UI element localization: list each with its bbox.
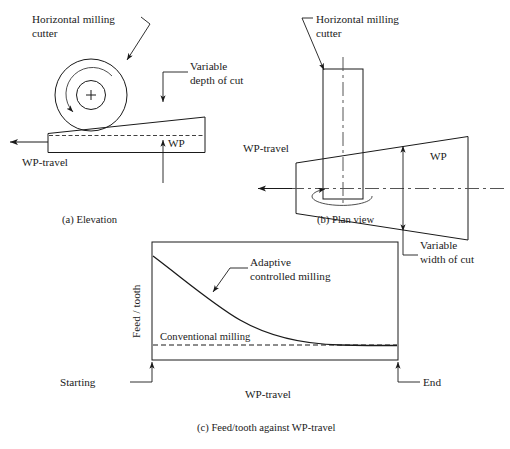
adaptive-milling-label-line2: controlled milling [250, 270, 331, 282]
caption-elevation: (a) Elevation [62, 214, 118, 226]
adaptive-milling-label-line1: Adaptive [250, 256, 291, 268]
panel-elevation: WP-travel WP Variable depth of cut Horiz… [10, 13, 244, 226]
cutter-label-plan-line2: cutter [316, 27, 342, 39]
wp-travel-label-plan: WP-travel [243, 142, 289, 154]
center-cross-icon [86, 90, 96, 100]
caption-plan-view: (b) Plan view [317, 214, 374, 226]
cutter-label-elevation-line2: cutter [32, 27, 58, 39]
elevation-cutter [55, 59, 127, 131]
rotation-arrow-icon [66, 67, 112, 112]
width-of-cut-leader [403, 231, 418, 255]
depth-of-cut-leader [163, 72, 188, 102]
chart-y-axis-label: Feed / tooth [130, 284, 142, 338]
cutter-leader-plan [302, 18, 324, 70]
adaptive-milling-leader [213, 268, 248, 292]
caption-feed-chart: (c) Feed/tooth against WP-travel [197, 422, 335, 434]
chart-x-axis-label: WP-travel [245, 388, 291, 400]
cutter-label-elevation-line1: Horizontal milling [32, 13, 115, 25]
variable-depth-label-line1: Variable [190, 60, 227, 72]
cutter-leader-elevation [127, 17, 150, 60]
wp-label-elevation: WP [168, 137, 185, 149]
variable-width-label-line2: width of cut [420, 253, 475, 265]
panel-plan-view: WP-travel WP Variable width of cut Horiz… [243, 13, 505, 265]
panel-feed-chart: Conventional milling Adaptive controlled… [60, 242, 441, 434]
variable-width-label-line1: Variable [420, 239, 457, 251]
wp-travel-label-elevation: WP-travel [22, 156, 68, 168]
conventional-milling-label: Conventional milling [160, 331, 251, 342]
wp-label-plan: WP [430, 150, 447, 162]
starting-label: Starting [60, 376, 96, 388]
milling-figure: WP-travel WP Variable depth of cut Horiz… [0, 0, 510, 449]
end-label: End [423, 376, 441, 388]
variable-depth-label-line2: depth of cut [190, 74, 244, 86]
cutter-label-plan-line1: Horizontal milling [316, 13, 399, 25]
